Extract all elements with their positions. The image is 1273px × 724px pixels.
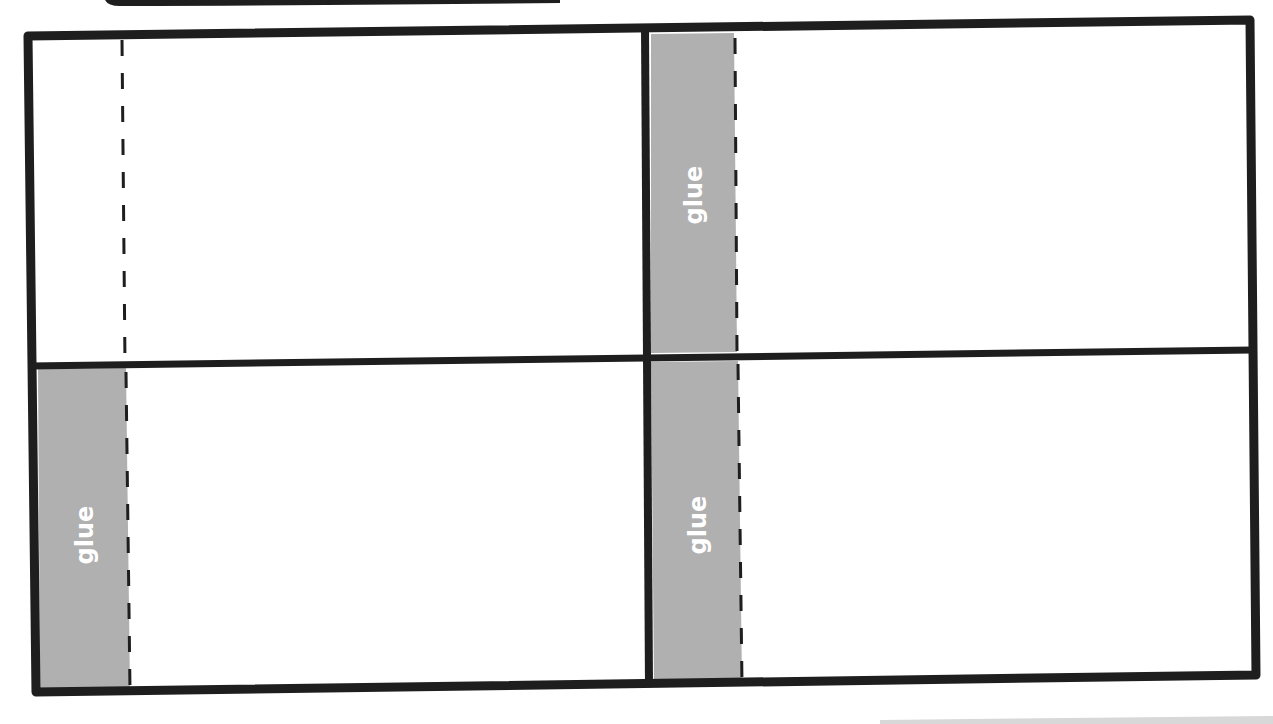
glue-label-top-right: glue (680, 166, 708, 225)
vertical-divider (645, 28, 649, 686)
top-edge-bar (105, 0, 560, 6)
glue-label-bottom-right: glue (684, 496, 712, 555)
cutout-template-sheet: glue glue glue (0, 0, 1273, 724)
bottom-edge-bar (880, 716, 1273, 724)
glue-label-bottom-left: glue (71, 506, 99, 565)
horizontal-divider (30, 350, 1253, 366)
template-outline-group: glue glue glue (28, 20, 1256, 692)
fold-line-top-left (122, 40, 125, 364)
